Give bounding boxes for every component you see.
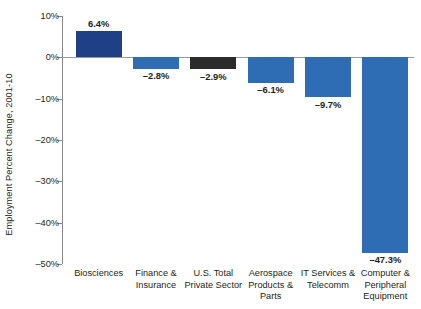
x-category-label-line: Equipment	[348, 291, 421, 303]
y-tick-label: –30%	[36, 176, 60, 186]
bar-value-label: –9.7%	[292, 99, 364, 110]
y-tick-label: 10%	[41, 11, 59, 21]
bar-value-label: –47.3%	[349, 254, 421, 265]
bar[interactable]	[190, 57, 236, 69]
y-tick-label: –40%	[36, 218, 60, 228]
x-category-label: Computer &PeripheralEquipment	[348, 268, 421, 303]
y-axis-title: Employment Percent Change, 2001-10	[0, 0, 18, 309]
y-axis-spine	[62, 16, 63, 264]
bar[interactable]	[248, 57, 294, 82]
bar[interactable]	[362, 57, 408, 253]
bar[interactable]	[76, 31, 122, 57]
plot-area: 10%0%–10%–20%–30%–40%–50% 6.4%–2.8%–2.9%…	[62, 16, 414, 264]
x-category-label-line: Parts	[234, 291, 308, 303]
bar[interactable]	[133, 57, 179, 69]
y-tick-label: –10%	[36, 94, 60, 104]
y-tick-label: –50%	[36, 259, 60, 269]
zero-baseline	[62, 57, 414, 58]
bar-chart: Employment Percent Change, 2001-10 10%0%…	[0, 0, 421, 309]
x-category-label-line: Computer &	[348, 268, 421, 280]
bar-value-label: –2.9%	[177, 71, 249, 82]
y-tick-label: –20%	[36, 135, 60, 145]
bar-value-label: –6.1%	[235, 84, 307, 95]
x-category-label-line: Peripheral	[348, 280, 421, 292]
bar[interactable]	[305, 57, 351, 97]
y-tick-label: 0%	[46, 52, 59, 62]
bar-value-label: 6.4%	[63, 18, 135, 29]
